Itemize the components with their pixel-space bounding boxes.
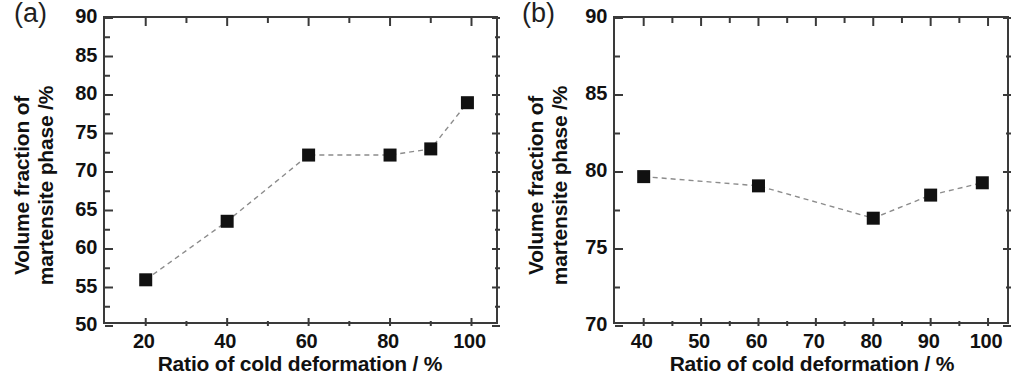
data-point-marker (461, 96, 474, 109)
y-tick-label: 85 (75, 43, 97, 66)
data-point-marker (139, 273, 152, 286)
y-tick-label: 55 (75, 274, 97, 297)
data-point-marker (424, 142, 437, 155)
x-tick-label: 100 (970, 330, 1002, 353)
x-tick-label: 80 (377, 330, 399, 353)
y-tick-label: 75 (585, 236, 607, 259)
data-point-marker (221, 215, 234, 228)
y-tick-label: 60 (75, 236, 97, 259)
y-tick-label: 70 (75, 159, 97, 182)
x-tick-label: 100 (453, 330, 485, 353)
panel-a-y-axis-label: Volume fraction of martensite phase /% (10, 0, 57, 388)
data-point-marker (752, 179, 765, 192)
y-tick-label: 80 (75, 82, 97, 105)
y-tick-label: 65 (75, 197, 97, 220)
panel-a-data-layer (105, 18, 496, 322)
data-point-marker (976, 176, 989, 189)
data-point-marker (867, 212, 880, 225)
data-point-marker (637, 170, 650, 183)
panel-b-x-axis-label: Ratio of cold deformation / % (512, 352, 1024, 376)
x-tick-label: 60 (746, 330, 768, 353)
y-tick-label: 70 (585, 313, 607, 336)
panel-b-y-axis-label: Volume fraction of martensite phase /% (524, 0, 571, 388)
panel-a-x-axis-label: Ratio of cold deformation / % (0, 352, 512, 376)
panel-a-plot-area (103, 16, 498, 324)
data-point-marker (384, 149, 397, 162)
x-tick-label: 60 (296, 330, 318, 353)
panel-b: (b) Volume fraction of martensite phase … (512, 0, 1024, 388)
y-tick-label: 90 (585, 5, 607, 28)
data-point-marker (924, 189, 937, 202)
x-tick-label: 70 (803, 330, 825, 353)
x-tick-label: 20 (133, 330, 155, 353)
panel-a: (a) Volume fraction of martensite phase … (0, 0, 512, 388)
panel-b-plot-area (613, 16, 1009, 324)
x-tick-label: 80 (860, 330, 882, 353)
x-tick-label: 40 (214, 330, 236, 353)
y-tick-label: 80 (585, 159, 607, 182)
x-tick-label: 40 (631, 330, 653, 353)
y-tick-label: 90 (75, 5, 97, 28)
panel-b-data-layer (615, 18, 1007, 322)
y-tick-label: 50 (75, 313, 97, 336)
data-point-marker (302, 149, 315, 162)
y-tick-label: 85 (585, 82, 607, 105)
two-panel-figure: (a) Volume fraction of martensite phase … (0, 0, 1024, 388)
x-tick-label: 50 (688, 330, 710, 353)
x-tick-label: 90 (918, 330, 940, 353)
y-tick-label: 75 (75, 120, 97, 143)
